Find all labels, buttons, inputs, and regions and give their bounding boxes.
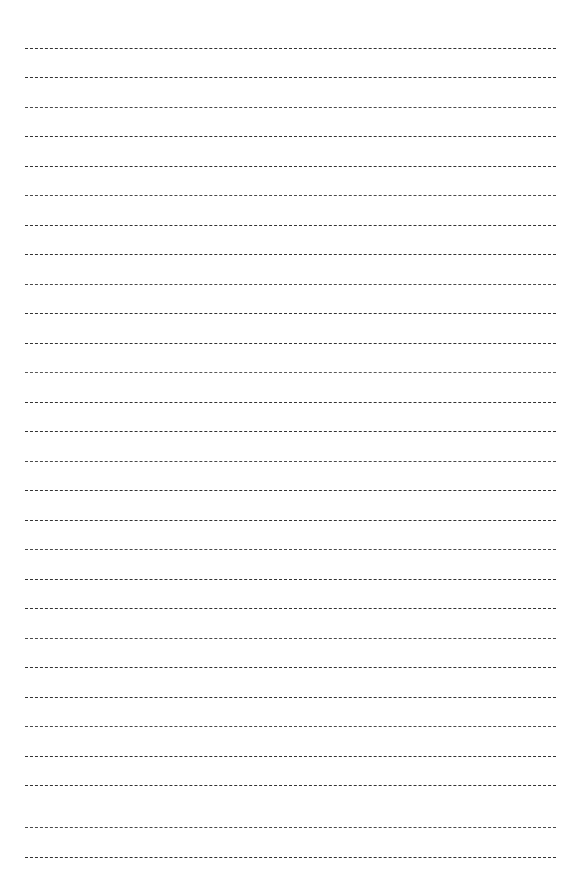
rule-line	[25, 195, 556, 196]
rule-line	[25, 638, 556, 639]
rule-line	[25, 254, 556, 255]
rule-line	[25, 402, 556, 403]
rule-line	[25, 372, 556, 373]
rule-line	[25, 431, 556, 432]
rule-line	[25, 579, 556, 580]
rule-line	[25, 166, 556, 167]
rule-line	[25, 136, 556, 137]
rule-line	[25, 520, 556, 521]
rule-line	[25, 48, 556, 49]
rule-line	[25, 667, 556, 668]
rule-line	[25, 549, 556, 550]
rule-line	[25, 107, 556, 108]
rule-line	[25, 284, 556, 285]
rule-line	[25, 785, 556, 786]
rule-line	[25, 313, 556, 314]
ruled-lines-area	[0, 0, 580, 890]
rule-line	[25, 77, 556, 78]
rule-line	[25, 726, 556, 727]
rule-line	[25, 697, 556, 698]
rule-line	[25, 343, 556, 344]
rule-line	[25, 827, 556, 828]
rule-line	[25, 225, 556, 226]
rule-line	[25, 756, 556, 757]
rule-line	[25, 857, 556, 858]
rule-line	[25, 608, 556, 609]
rule-line	[25, 461, 556, 462]
lined-paper-page	[0, 0, 580, 890]
rule-line	[25, 490, 556, 491]
